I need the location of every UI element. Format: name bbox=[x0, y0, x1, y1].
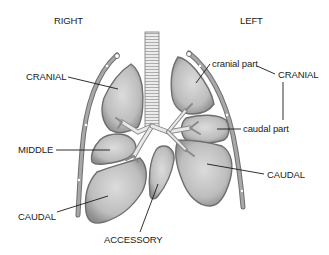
right-middle-lobe bbox=[91, 134, 136, 164]
lung-diagram: RIGHT LEFT CRANIAL MIDDLE CAUDAL ACCESSO… bbox=[0, 0, 329, 255]
trachea bbox=[145, 32, 159, 128]
label-left-caudal: CAUDAL bbox=[267, 170, 305, 180]
label-caudal-part: caudal part bbox=[243, 124, 289, 134]
right-caudal-lobe bbox=[85, 158, 146, 223]
label-cranial-part: cranial part bbox=[212, 59, 258, 69]
label-right-caudal: CAUDAL bbox=[18, 212, 56, 222]
label-right-middle: MIDDLE bbox=[18, 145, 53, 155]
label-left: LEFT bbox=[240, 16, 263, 26]
label-left-cranial: CRANIAL bbox=[278, 70, 318, 80]
left-cranial-lobe-cranial-part bbox=[171, 57, 214, 114]
label-accessory: ACCESSORY bbox=[104, 235, 163, 245]
label-right-cranial: CRANIAL bbox=[26, 72, 66, 82]
label-right: RIGHT bbox=[54, 16, 83, 26]
accessory-lobe bbox=[149, 146, 174, 199]
